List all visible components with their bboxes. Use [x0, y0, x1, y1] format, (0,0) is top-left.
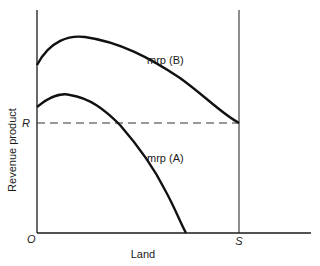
curve-a-label: mrp (A) [147, 152, 184, 164]
origin-label: O [27, 233, 36, 245]
r-tick-label: R [22, 117, 30, 129]
revenue-product-diagram: Revenue product Land O S R mrp (B) mrp (… [0, 0, 320, 266]
curve-mrp-b [37, 37, 239, 123]
s-tick-label: S [235, 235, 243, 247]
curve-b-label: mrp (B) [147, 54, 184, 66]
x-axis-label: Land [131, 248, 155, 260]
y-axis-label: Revenue product [6, 108, 18, 192]
